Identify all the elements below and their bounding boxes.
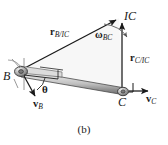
subscript-r-b-ic: B/IC	[55, 30, 69, 39]
label-angle-theta: θ	[42, 84, 48, 95]
joint-pin-b	[8, 58, 28, 90]
symbol-r-c-ic: r	[130, 52, 135, 63]
subscript-r-c-ic: C/IC	[135, 56, 150, 65]
subscript-omega-bc: BC	[103, 33, 113, 42]
figure-instantaneous-center: IC B C rB/IC rC/IC ωBC vB vC θ (b)	[0, 0, 168, 145]
subscript-v-c: C	[151, 97, 156, 106]
label-angular-velocity-bc: ωBC	[95, 30, 112, 41]
figure-caption: (b)	[0, 124, 168, 135]
symbol-r-b-ic: r	[50, 26, 55, 37]
label-point-b: B	[3, 70, 10, 82]
label-point-c: C	[118, 96, 126, 108]
symbol-omega: ω	[95, 29, 103, 40]
subscript-v-b: B	[38, 102, 43, 111]
label-vector-v-c: vC	[146, 94, 156, 105]
label-vector-r-c-ic: rC/IC	[130, 53, 149, 64]
label-vector-r-b-ic: rB/IC	[50, 27, 69, 38]
label-instantaneous-center: IC	[124, 10, 136, 22]
label-vector-v-b: vB	[33, 99, 43, 110]
